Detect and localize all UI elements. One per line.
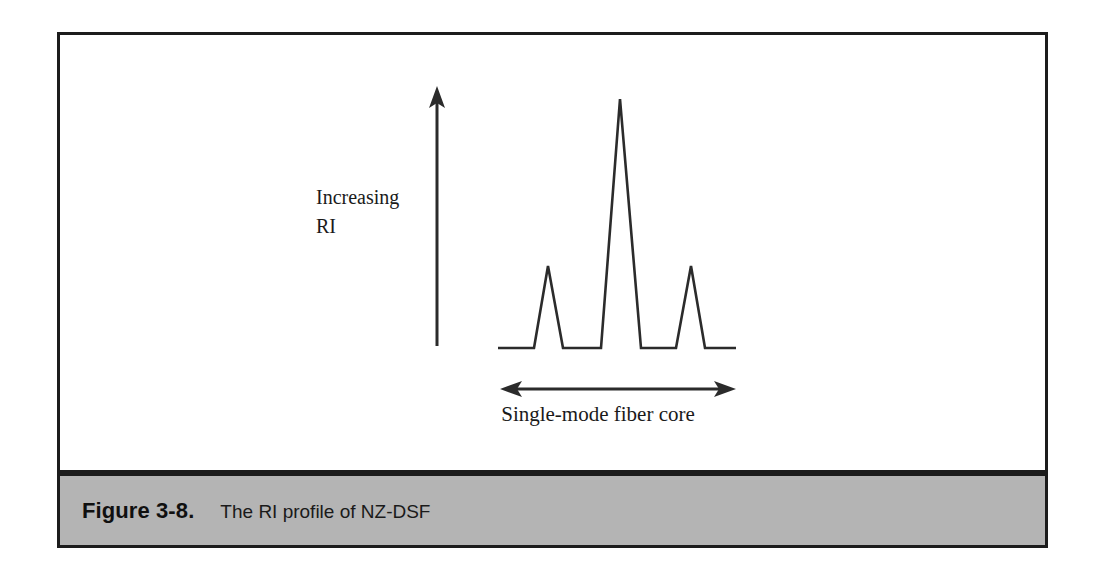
y-axis-label: Increasing RI	[316, 183, 446, 241]
figure-caption: Figure 3-8. The RI profile of NZ-DSF	[82, 498, 430, 524]
figure-number: Figure 3-8.	[82, 498, 194, 524]
diagram-canvas: Increasing RI Single-mode fiber core	[60, 35, 1045, 471]
ri-profile-curve	[498, 99, 736, 348]
figure-caption-title: The RI profile of NZ-DSF	[220, 501, 430, 523]
figure-frame: Increasing RI Single-mode fiber core Fig…	[57, 32, 1048, 548]
x-axis-double-arrow	[500, 381, 736, 397]
figure-caption-band: Figure 3-8. The RI profile of NZ-DSF	[60, 470, 1045, 545]
x-axis-label: Single-mode fiber core	[438, 402, 758, 427]
figure-page: Increasing RI Single-mode fiber core Fig…	[0, 0, 1105, 583]
